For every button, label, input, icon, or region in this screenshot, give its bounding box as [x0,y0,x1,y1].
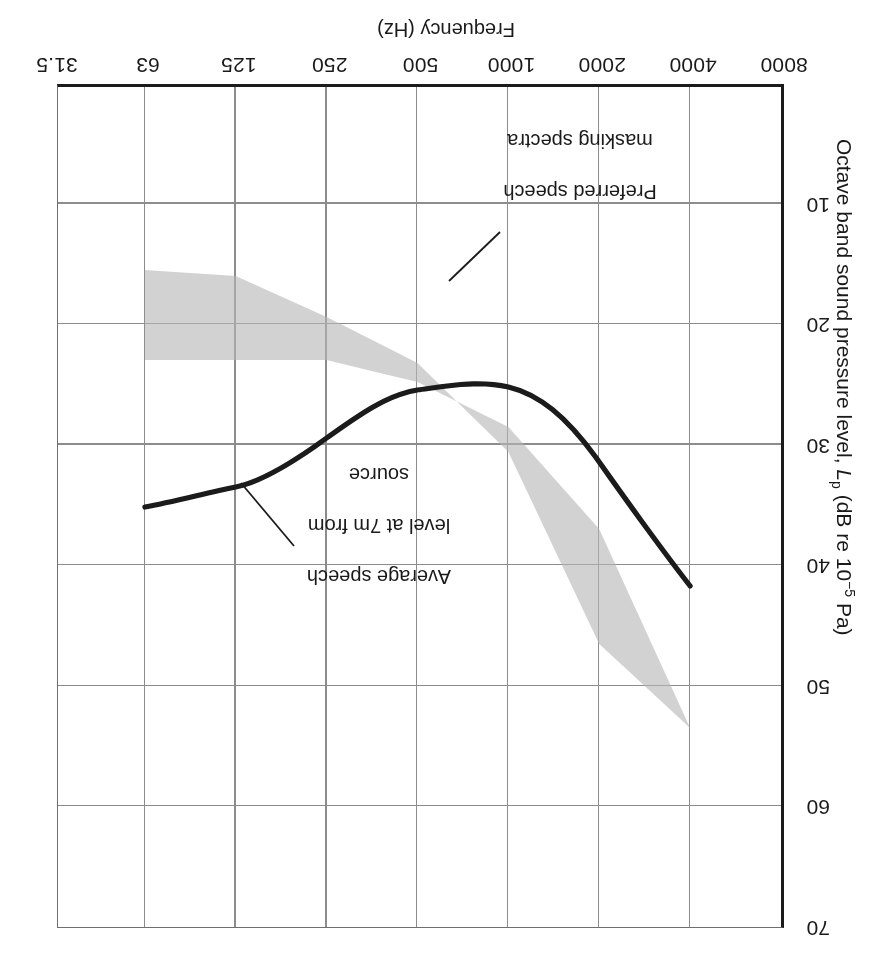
masking-spectra-annotation-line-2: masking spectra [475,128,685,154]
y-tick-label-20: 20 [807,313,830,337]
y-axis-title-exponent: −5 [842,581,858,597]
y-tick-label-70: 70 [807,916,830,940]
masking-spectra-leader-line [449,232,500,281]
y-axis-title-tail-close: Pa) [833,597,856,636]
x-tick-label-500: 500 [403,53,439,77]
x-tick-label-31-5: 31.5 [36,53,78,77]
x-tick-label-125: 125 [221,53,257,77]
y-tick-label-10: 10 [807,193,830,217]
y-axis-title-lead: Octave band sound pressure level, [833,139,856,469]
x-axis-title: Frequency (Hz) [377,18,515,41]
x-tick-label-4000: 4000 [669,53,717,77]
x-tick-label-8000: 8000 [760,53,808,77]
figure-rotated-wrapper: Average speech level at 7m from source P… [0,0,892,965]
y-tick-label-40: 40 [807,554,830,578]
x-tick-label-250: 250 [312,53,348,77]
masking-spectra-annotation-line-1: Preferred speech [475,179,685,205]
y-axis-title: Octave band sound pressure level, Lp (dB… [829,139,858,636]
y-axis-title-symbol-sub: p [829,481,845,489]
y-tick-label-30: 30 [807,434,830,458]
y-axis-title-tail-open: (dB re 10 [833,489,856,581]
speech-level-annotation-line-1: Average speech [264,564,494,590]
speech-level-annotation-line-2: level at 7m from [264,513,494,539]
x-tick-label-2000: 2000 [578,53,626,77]
x-tick-label-1000: 1000 [488,53,536,77]
masking-spectra-annotation: Preferred speech masking spectra [475,102,685,230]
speech-level-annotation: Average speech level at 7m from source [264,436,494,615]
y-axis-title-symbol: L [833,469,856,481]
y-tick-label-50: 50 [807,675,830,699]
x-tick-label-63: 63 [136,53,160,77]
y-tick-label-60: 60 [807,795,830,819]
plot-area: Average speech level at 7m from source P… [57,84,784,928]
speech-level-annotation-line-3: source [264,461,494,487]
chart-figure: Average speech level at 7m from source P… [0,0,892,965]
